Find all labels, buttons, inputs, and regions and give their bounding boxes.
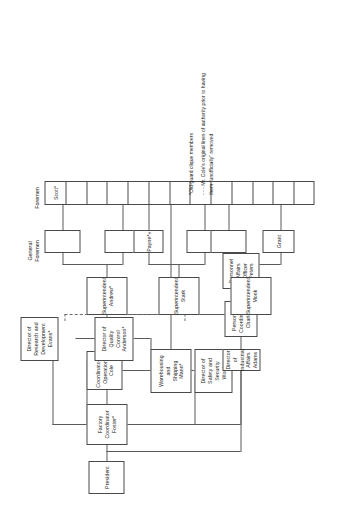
line-monk-grant [280, 253, 281, 265]
line-gf1-foremen [62, 205, 63, 230]
node-director-industrial-affairs[interactable]: Director of Industrial Affairs Adams [222, 349, 260, 371]
line-president-riser [106, 451, 240, 452]
footnote-0: *Old-guard clique members [186, 0, 194, 195]
line-gf2-foremen [122, 205, 123, 230]
line-andrew-branch [62, 264, 122, 265]
foreman-cell[interactable] [128, 182, 149, 204]
node-president[interactable]: President [88, 461, 124, 494]
line-stark-branch [148, 264, 204, 265]
node-general-foreman-5[interactable] [210, 230, 246, 253]
footnote-2: them "unofficially" removed [206, 0, 214, 195]
node-superintendent-monk[interactable]: Superintendent Monk [230, 277, 271, 315]
node-superintendent-stark[interactable]: Superintendent Stark [158, 277, 199, 315]
foreman-cell[interactable] [107, 182, 128, 204]
line-president-factory [106, 445, 107, 461]
foreman-cell[interactable] [87, 182, 108, 204]
node-factory-coordinator[interactable]: Factory Coordinator Foster* [86, 404, 127, 445]
line-qc-down [133, 338, 150, 339]
foreman-cell[interactable] [253, 182, 274, 204]
line-factory-to-rd [52, 361, 53, 425]
line-industrial-to-pcoord [240, 337, 241, 349]
line-gf3-foremen [148, 205, 149, 230]
dashed-cole-tick-bottom [184, 314, 185, 321]
foreman-cell[interactable] [273, 182, 294, 204]
line-president-to-industrial [240, 371, 241, 452]
node-director-research-development[interactable]: Director of Research and Development Eva… [20, 317, 58, 361]
line-andrew-out [106, 265, 107, 277]
node-director-quality-control[interactable]: Director of Quality Control Anderson* [94, 317, 133, 361]
line-andrew-gf1 [62, 253, 63, 265]
node-general-foreman-grant[interactable]: Grant [262, 230, 294, 253]
node-general-foreman-1[interactable] [44, 230, 80, 253]
line-grant-foremen [280, 205, 281, 230]
node-general-foreman-payne[interactable]: Payne*+ [133, 230, 163, 253]
line-factory-coordops [106, 390, 107, 404]
org-chart-viewport: General Foremen Foremen President Factor… [0, 0, 345, 520]
dashed-cole-tick-top [64, 314, 65, 321]
line-stark-gf4 [204, 253, 205, 265]
line-gf5-foremen [228, 205, 229, 230]
line-andrew-gf2 [122, 253, 123, 265]
line-stark-gf3 [148, 253, 149, 265]
foreman-cell[interactable] [66, 182, 87, 204]
footnotes: *Old-guard clique members - - - Mr. Cole… [186, 0, 214, 195]
foreman-cell[interactable] [294, 182, 315, 204]
node-warehousing-shipping[interactable]: Warehousing and Shipping Mann* [150, 349, 191, 393]
foremen-stack: Scott* [44, 181, 314, 205]
org-chart-canvas: General Foremen Foremen President Factor… [0, 0, 345, 520]
node-superintendent-andrew[interactable]: Superintendent Andrew* [86, 277, 127, 315]
line-gf4-foremen [204, 205, 205, 230]
foreman-cell[interactable]: Scott* [45, 182, 66, 204]
column-header-general-foremen: General Foremen [26, 227, 41, 275]
line-stark-out [178, 265, 179, 277]
foreman-cell[interactable] [149, 182, 170, 204]
column-header-foremen: Foremen [33, 180, 40, 216]
foreman-cell[interactable] [232, 182, 253, 204]
footnote-1: - - - Mr. Cole's original lines of autho… [198, 0, 206, 195]
line-rd-to-qc [75, 338, 95, 339]
